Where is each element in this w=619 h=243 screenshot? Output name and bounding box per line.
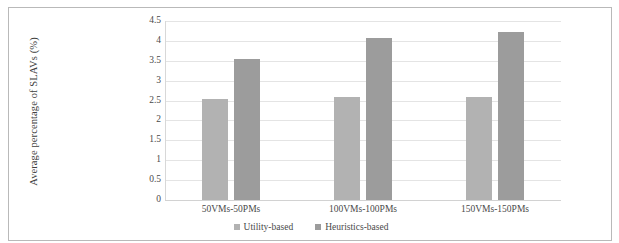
legend-label: Utility-based: [244, 222, 294, 232]
x-tick-label: 100VMs-100PMs: [329, 204, 397, 214]
y-axis-tick-labels: 00.511.522.533.544.5: [137, 8, 161, 242]
bar: [466, 97, 492, 200]
bar-chart: Average percentage of SLAVs (%) 00.511.5…: [9, 8, 613, 242]
y-tick-label: 3: [156, 76, 161, 86]
y-tick-label: 2: [156, 116, 161, 126]
legend-entry[interactable]: Heuristics-based: [315, 222, 388, 232]
y-tick-label: 0: [156, 195, 161, 205]
chart-legend: Utility-basedHeuristics-based: [9, 222, 613, 232]
bar-group: [466, 21, 524, 200]
y-tick-label: 4.5: [149, 16, 161, 26]
bar: [366, 38, 392, 200]
figure-frame: Average percentage of SLAVs (%) 00.511.5…: [8, 7, 612, 241]
legend-entry[interactable]: Utility-based: [234, 222, 294, 232]
legend-swatch-icon: [234, 224, 240, 230]
y-tick-label: 0.5: [149, 175, 161, 185]
y-tick-label: 2.5: [149, 96, 161, 106]
bar: [234, 59, 260, 200]
y-axis-title: Average percentage of SLAVs (%): [28, 24, 39, 200]
y-tick-label: 1.5: [149, 136, 161, 146]
bar: [334, 97, 360, 200]
bar: [498, 32, 524, 200]
bars-layer: [165, 21, 561, 200]
x-tick-label: 150VMs-150PMs: [461, 204, 529, 214]
legend-swatch-icon: [315, 224, 321, 230]
x-tick-label: 50VMs-50PMs: [202, 204, 261, 214]
gridline: [165, 200, 561, 201]
plot-area: [165, 21, 561, 200]
y-tick-label: 4: [156, 36, 161, 46]
y-tick-label: 3.5: [149, 56, 161, 66]
legend-label: Heuristics-based: [325, 222, 388, 232]
bar-group: [334, 21, 392, 200]
bar: [202, 99, 228, 200]
bar-group: [202, 21, 260, 200]
x-axis-tick-labels: 50VMs-50PMs100VMs-100PMs150VMs-150PMs: [165, 204, 561, 220]
y-tick-label: 1: [156, 155, 161, 165]
